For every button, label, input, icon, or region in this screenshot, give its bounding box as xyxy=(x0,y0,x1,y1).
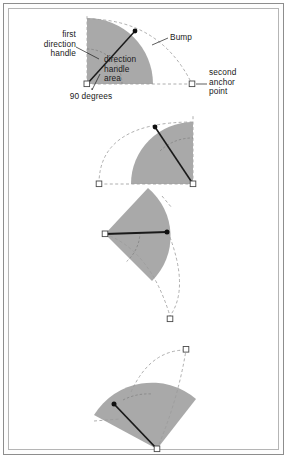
panel-2-first-anchor-point[interactable] xyxy=(190,181,196,187)
panel-3-second-anchor-point[interactable] xyxy=(167,316,173,322)
panel-3-first-anchor-point[interactable] xyxy=(102,231,108,237)
panel-4-first-anchor-point[interactable] xyxy=(154,446,160,452)
panel-3-handle-endpoint-dot[interactable] xyxy=(165,230,170,235)
label-bump: Bump xyxy=(170,33,210,43)
panel-3-rotated-horizontal xyxy=(102,188,179,322)
figure-page: first direction handle direction handle … xyxy=(0,0,288,459)
panel-2-second-anchor-point[interactable] xyxy=(96,181,102,187)
panel-4-handle-endpoint-dot[interactable] xyxy=(112,402,117,407)
panel-1-first-anchor-point[interactable] xyxy=(84,81,90,87)
panel-1-handle-endpoint-dot[interactable] xyxy=(133,29,138,34)
label-second-anchor-point: second anchor point xyxy=(209,68,269,97)
panel-4-fan-sector xyxy=(94,383,196,449)
panel-2-rotated-right xyxy=(96,114,196,187)
leader-bump xyxy=(152,38,168,45)
label-first-direction-handle: first direction handle xyxy=(14,30,76,59)
panel-4-rotated-diagonal xyxy=(94,347,196,452)
panel-4-second-anchor-point[interactable] xyxy=(183,347,189,353)
label-ninety-degrees: 90 degrees xyxy=(58,92,124,102)
panel-2-handle-endpoint-dot[interactable] xyxy=(153,125,158,130)
panel-3-top-guide xyxy=(162,196,172,208)
label-direction-handle-area: direction handle area xyxy=(104,55,162,84)
panel-1-second-anchor-point[interactable] xyxy=(189,81,195,87)
panel-2-fan-sector xyxy=(131,122,193,184)
